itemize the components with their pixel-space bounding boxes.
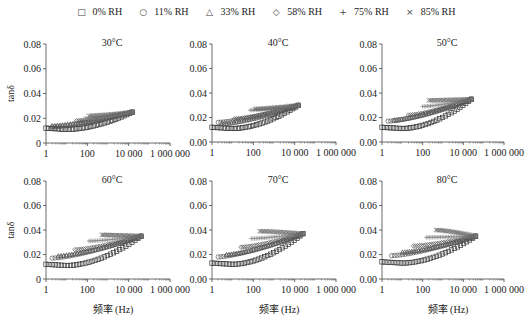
subplot-title: 30°C	[102, 37, 123, 48]
x-tick-label: 1 000 000	[316, 284, 356, 295]
subplot-title: 60°C	[102, 174, 123, 185]
y-tick-label: 0.06	[24, 63, 42, 74]
y-tick-label: 0.06	[24, 200, 42, 211]
x-tick-label: 1 000 000	[150, 148, 190, 159]
x-tick-label: 1	[44, 148, 49, 159]
series-85rh	[427, 97, 474, 103]
y-tick-label: 0.08	[190, 39, 208, 50]
y-tick-label: 0.04	[190, 88, 208, 99]
y-tick-label: 0.06	[360, 63, 378, 74]
y-tick-label: 0.06	[190, 63, 208, 74]
y-tick-label: 0.02	[24, 249, 42, 260]
x-tick-label: 100	[246, 284, 261, 295]
subplot: 0.000.020.040.060.08110010 0001 000 0008…	[360, 174, 525, 316]
x-tick-label: 100	[246, 147, 261, 158]
y-tick-label: 0.08	[360, 39, 378, 50]
x-tick-label: 1 000 000	[316, 147, 356, 158]
x-tick-label: 100	[415, 147, 430, 158]
y-tick-label: 0.04	[190, 225, 208, 236]
y-axis-label: tanδ	[5, 221, 16, 238]
x-tick-label: 10 000	[115, 148, 143, 159]
y-tick-label: 0.02	[360, 112, 378, 123]
x-axis-label: 频率 (Hz)	[428, 303, 469, 316]
x-tick-label: 1	[380, 284, 385, 295]
x-tick-label: 1	[380, 147, 385, 158]
x-tick-label: 100	[415, 284, 430, 295]
y-tick-label: 0.00	[190, 137, 208, 148]
x-tick-label: 1 000 000	[484, 147, 524, 158]
y-tick-label: 0.08	[24, 176, 42, 187]
x-tick-label: 1 000 000	[484, 284, 524, 295]
x-tick-label: 10 000	[115, 284, 143, 295]
y-tick-label: 0.04	[360, 88, 378, 99]
y-tick-label: 0.04	[24, 88, 42, 99]
subplot-title: 80°C	[437, 174, 458, 185]
y-tick-label: 0.00	[190, 274, 208, 285]
x-tick-label: 10 000	[281, 147, 309, 158]
y-tick-label: 0.06	[190, 200, 208, 211]
subplot: 00.020.040.060.08110010 0001 000 00030°C…	[5, 37, 190, 159]
y-tick-label: 0.02	[190, 249, 208, 260]
series-85rh	[100, 233, 144, 239]
y-tick-label: 0.04	[24, 225, 42, 236]
subplot-title: 50°C	[437, 37, 458, 48]
x-tick-label: 100	[80, 284, 95, 295]
y-tick-label: 0.08	[360, 176, 378, 187]
y-tick-label: 0.08	[190, 176, 208, 187]
y-tick-label: 0.08	[24, 39, 42, 50]
x-tick-label: 10 000	[281, 284, 309, 295]
x-tick-label: 100	[80, 148, 95, 159]
y-tick-label: 0.02	[360, 249, 378, 260]
y-tick-label: 0.00	[360, 137, 378, 148]
x-axis-label: 频率 (Hz)	[93, 303, 134, 316]
y-tick-label: 0.00	[360, 274, 378, 285]
x-tick-label: 1 000 000	[150, 284, 190, 295]
y-tick-label: 0	[36, 138, 41, 149]
subplot: 0.000.020.040.060.08110010 0001 000 0004…	[190, 37, 357, 158]
subplot: 0.000.020.040.060.08110010 0001 000 0005…	[360, 37, 525, 158]
subplot: 00.020.040.060.08110010 0001 000 00060°C…	[5, 174, 190, 316]
chart-area: 00.020.040.060.08110010 0001 000 00030°C…	[0, 0, 532, 324]
subplot: 0.000.020.040.060.08110010 0001 000 0007…	[190, 174, 357, 316]
subplot-title: 70°C	[268, 174, 289, 185]
x-tick-label: 10 000	[450, 147, 478, 158]
y-axis-label: tanδ	[5, 85, 16, 102]
x-tick-label: 10 000	[450, 284, 478, 295]
subplot-title: 40°C	[268, 37, 289, 48]
x-tick-label: 1	[44, 284, 49, 295]
x-tick-label: 1	[210, 147, 215, 158]
y-tick-label: 0.04	[360, 225, 378, 236]
y-tick-label: 0	[36, 274, 41, 285]
x-axis-label: 频率 (Hz)	[259, 303, 300, 316]
x-tick-label: 1	[210, 284, 215, 295]
y-tick-label: 0.02	[190, 112, 208, 123]
y-tick-label: 0.06	[360, 200, 378, 211]
y-tick-label: 0.02	[24, 113, 42, 124]
